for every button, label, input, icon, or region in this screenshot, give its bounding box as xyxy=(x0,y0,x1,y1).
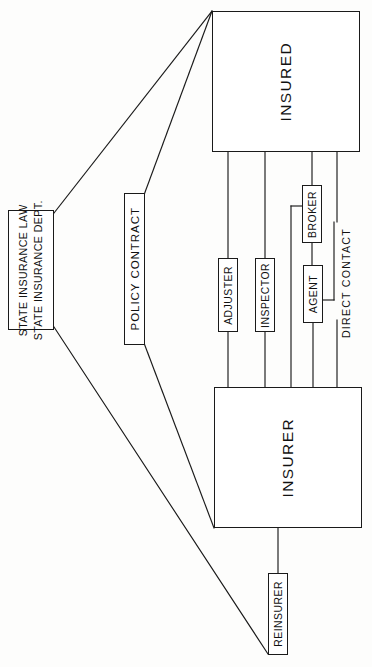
broker-label: BROKER xyxy=(307,191,318,238)
agent-label: AGENT xyxy=(308,275,319,313)
node-policy-contract[interactable]: POLICY CONTRACT xyxy=(124,193,145,345)
inspector-label: INSPECTOR xyxy=(260,263,271,328)
node-agent[interactable]: AGENT xyxy=(303,265,323,323)
state-insurance-label-stack: STATE INSURANCE LAW STATE INSURANCE DEPT… xyxy=(16,200,46,340)
insurer-label: INSURER xyxy=(279,418,297,498)
node-inspector[interactable]: INSPECTOR xyxy=(255,258,275,332)
node-adjuster[interactable]: ADJUSTER xyxy=(218,258,238,332)
connector-policy-to-insured xyxy=(144,11,212,195)
node-reinsurer[interactable]: REINSURER xyxy=(268,573,288,655)
node-insured[interactable]: INSURED xyxy=(212,11,360,152)
connector-state-to-insured xyxy=(54,11,212,213)
insured-label: INSURED xyxy=(277,42,295,122)
connector-policy-to-insurer xyxy=(144,343,214,528)
direct-contact-label: DIRECT CONTACT xyxy=(340,228,352,338)
state-insurance-dept-label: STATE INSURANCE DEPT. xyxy=(31,200,46,340)
state-insurance-law-label: STATE INSURANCE LAW xyxy=(16,200,31,340)
policy-contract-label: POLICY CONTRACT xyxy=(128,207,141,330)
adjuster-label: ADJUSTER xyxy=(223,266,234,325)
reinsurer-label: REINSURER xyxy=(273,581,284,647)
node-broker[interactable]: BROKER xyxy=(302,185,322,243)
node-insurer[interactable]: INSURER xyxy=(214,387,362,528)
insurance-relationship-diagram: STATE INSURANCE LAW STATE INSURANCE DEPT… xyxy=(0,0,372,667)
direct-contact-text: DIRECT CONTACT xyxy=(340,228,352,338)
node-state-insurance[interactable]: STATE INSURANCE LAW STATE INSURANCE DEPT… xyxy=(8,210,54,330)
